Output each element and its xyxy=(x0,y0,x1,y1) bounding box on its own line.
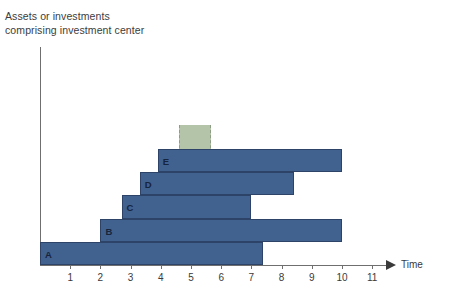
x-axis-tick-label: 4 xyxy=(151,272,171,283)
x-axis-tick xyxy=(312,265,313,269)
x-axis-tick xyxy=(100,265,101,269)
x-axis-tick xyxy=(191,265,192,269)
bar-d xyxy=(140,172,294,195)
x-axis-tick xyxy=(221,265,222,269)
x-axis-tick-label: 1 xyxy=(60,272,80,283)
x-axis-tick-label: 11 xyxy=(362,272,382,283)
bar-b xyxy=(100,219,342,242)
x-axis-tick-label: 2 xyxy=(90,272,110,283)
x-axis-tick-label: 9 xyxy=(302,272,322,283)
chart-canvas: Assets or investments comprising investm… xyxy=(0,0,450,301)
x-axis-tick xyxy=(282,265,283,269)
x-axis-tick xyxy=(372,265,373,269)
x-axis-line xyxy=(40,265,388,266)
y-axis-line xyxy=(40,47,41,266)
bar-label-b: B xyxy=(105,226,112,237)
bar-label-d: D xyxy=(145,179,152,190)
x-axis-arrow-icon xyxy=(386,260,396,270)
bar-label-e: E xyxy=(163,156,169,167)
bar-a xyxy=(40,242,263,265)
x-axis-label: Time xyxy=(401,259,423,270)
x-axis-tick-label: 7 xyxy=(241,272,261,283)
x-axis-tick xyxy=(342,265,343,269)
x-axis-tick xyxy=(161,265,162,269)
x-axis-tick-label: 8 xyxy=(272,272,292,283)
x-axis-tick-label: 5 xyxy=(181,272,201,283)
x-axis-tick xyxy=(70,265,71,269)
x-axis-tick-label: 3 xyxy=(121,272,141,283)
y-axis-title: Assets or investments comprising investm… xyxy=(5,9,144,37)
x-axis-tick xyxy=(251,265,252,269)
x-axis-tick-label: 6 xyxy=(211,272,231,283)
bar-e xyxy=(158,149,342,172)
bar-c xyxy=(122,195,252,218)
bar-label-c: C xyxy=(127,202,134,213)
x-axis-tick xyxy=(131,265,132,269)
x-axis-tick-label: 10 xyxy=(332,272,352,283)
bar-label-a: A xyxy=(45,249,52,260)
